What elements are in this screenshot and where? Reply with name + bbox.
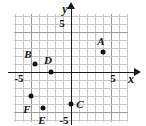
x-axis-arrow-icon (134, 68, 141, 76)
y-axis-arrow-icon (67, 2, 75, 9)
plotted-point-b (33, 62, 38, 67)
coordinate-plane-figure: x y -5 5 5 -5 ABCDEF (0, 0, 146, 125)
point-label-e: E (38, 115, 45, 126)
grid-line-vertical (127, 14, 128, 122)
point-label-f: F (23, 104, 30, 115)
grid-line-vertical (15, 14, 16, 122)
grid-line-vertical (95, 14, 96, 122)
plotted-point-a (101, 50, 106, 55)
point-label-b: B (24, 49, 31, 60)
y-tick-positive-5: 5 (59, 18, 65, 29)
plotted-point-e (41, 106, 46, 111)
x-tick-positive-5: 5 (110, 73, 116, 84)
y-axis (71, 6, 73, 125)
point-label-a: A (97, 36, 104, 47)
grid-line-vertical (111, 14, 112, 122)
grid-line-vertical (55, 14, 56, 122)
plotted-point-c (69, 102, 74, 107)
x-axis-label: x (128, 73, 134, 85)
grid-line-vertical (103, 14, 104, 122)
x-tick-negative-5: -5 (14, 73, 23, 84)
grid-line-vertical (47, 14, 48, 122)
grid-line-vertical (63, 14, 64, 122)
grid-line-vertical (87, 14, 88, 122)
plotted-point-d (49, 70, 54, 75)
grid-line-vertical (31, 14, 32, 122)
plotted-point-f (29, 94, 34, 99)
y-axis-label: y (62, 3, 67, 15)
point-label-c: C (76, 99, 83, 110)
grid-line-vertical (119, 14, 120, 122)
y-tick-negative-5: -5 (59, 115, 68, 126)
point-label-d: D (44, 55, 52, 66)
